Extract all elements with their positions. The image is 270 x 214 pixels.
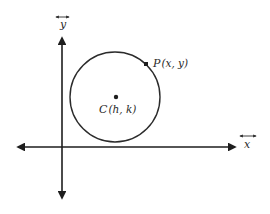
center-label: C(h, k) xyxy=(99,103,136,116)
diagram-canvas: y x C(h, k) P(x, y) xyxy=(0,0,270,214)
y-axis-label: y xyxy=(59,18,67,31)
x-axis-label-group: x xyxy=(240,136,256,151)
center-point-c xyxy=(114,95,118,99)
point-p-label: P(x, y) xyxy=(152,57,188,70)
point-p xyxy=(144,62,148,66)
y-axis-label-group: y xyxy=(56,17,69,31)
x-axis-label: x xyxy=(244,138,251,151)
